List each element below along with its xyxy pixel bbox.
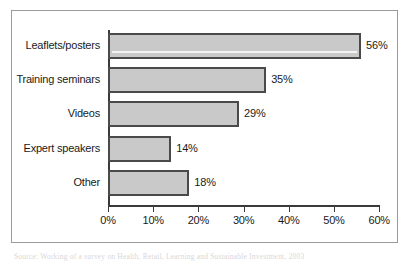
x-axis-tick (244, 207, 245, 212)
x-axis-tick (108, 207, 109, 212)
bar (108, 136, 171, 162)
x-axis-tick-label: 60% (368, 214, 389, 226)
chart-frame: 0%10%20%30%40%50%60% Leaflets/posters56%… (11, 10, 398, 243)
bar-row: Videos29% (12, 101, 399, 127)
bar (108, 170, 189, 196)
x-axis-tick-label: 30% (233, 214, 254, 226)
x-axis-tick-label: 0% (100, 214, 116, 226)
bar (108, 101, 239, 127)
x-axis-tick-label: 20% (188, 214, 209, 226)
category-label: Expert speakers (24, 142, 100, 154)
bar (108, 67, 266, 93)
x-axis-tick-label: 40% (278, 214, 299, 226)
category-label: Training seminars (16, 73, 100, 85)
plot-area: 0%10%20%30%40%50%60% Leaflets/posters56%… (12, 11, 399, 244)
category-label: Videos (68, 107, 100, 119)
bar-value-label: 29% (244, 107, 265, 119)
x-axis-tick-label: 10% (142, 214, 163, 226)
bar-value-label: 56% (366, 39, 387, 51)
x-axis-tick (289, 207, 290, 212)
bar-row: Training seminars35% (12, 67, 399, 93)
x-axis-tick (198, 207, 199, 212)
bar-value-label: 35% (271, 73, 292, 85)
x-axis-tick (379, 207, 380, 212)
bar-value-label: 18% (194, 176, 215, 188)
x-axis-tick (334, 207, 335, 212)
category-label: Leaflets/posters (26, 39, 100, 51)
category-label: Other (73, 176, 100, 188)
figure-caption: Source: Working of a survey on Health, R… (14, 252, 404, 262)
bar (108, 33, 361, 59)
bar-row: Leaflets/posters56% (12, 33, 399, 59)
x-axis-tick (153, 207, 154, 212)
bar-row: Expert speakers14% (12, 136, 399, 162)
bar-row: Other18% (12, 170, 399, 196)
bar-highlight-streak (112, 51, 357, 53)
x-axis-tick-label: 50% (323, 214, 344, 226)
figure: 0%10%20%30%40%50%60% Leaflets/posters56%… (0, 0, 410, 267)
bar-value-label: 14% (176, 142, 197, 154)
